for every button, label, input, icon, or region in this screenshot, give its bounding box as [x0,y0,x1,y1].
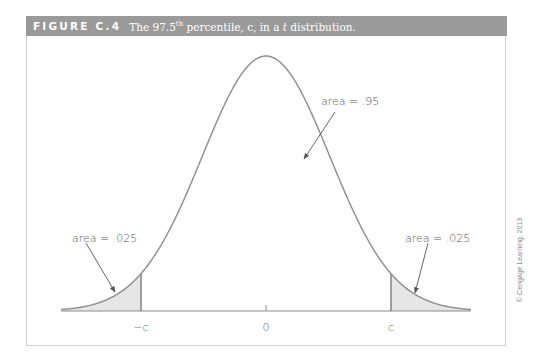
density-curve [61,56,471,310]
left-area-arrow [86,243,115,292]
center-area-arrow [304,112,335,159]
right-tail-shaded-area [391,274,471,311]
tick-label-neg-c: −c [133,321,148,334]
left-area-label: area = .025 [72,232,137,245]
tick-label-zero: 0 [263,321,270,334]
tick-label-c: c [388,321,394,334]
right-area-label: area = .025 [405,232,470,245]
left-tail-shaded-area [61,274,141,311]
t-distribution-plot: area = .025 area = .95 area = .025 −c 0 … [0,0,533,360]
center-area-label: area = .95 [321,95,379,108]
copyright-notice: © Cengage Learning, 2013 [516,218,523,302]
right-area-arrow [415,243,428,293]
